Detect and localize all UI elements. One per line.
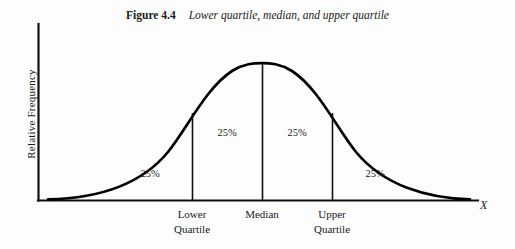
y-axis-label: Relative Frequency xyxy=(25,39,37,189)
area-label-far-left: 25% xyxy=(130,168,170,179)
area-label-far-right: 25% xyxy=(355,168,395,179)
tick-label-upper-quartile: Upper Quartile xyxy=(287,207,377,237)
normal-curve xyxy=(48,63,470,199)
area-label-left: 25% xyxy=(207,127,247,138)
tick-label-lower-quartile-line2: Quartile xyxy=(147,222,237,237)
x-axis-variable-label: X xyxy=(480,198,487,213)
tick-label-lower-quartile-line1: Lower xyxy=(178,208,207,220)
figure-container: Figure 4.4Lower quartile, median, and up… xyxy=(0,0,515,249)
tick-label-upper-quartile-line1: Upper xyxy=(318,208,346,220)
area-label-right: 25% xyxy=(277,127,317,138)
tick-label-upper-quartile-line2: Quartile xyxy=(287,222,377,237)
tick-label-median-line1: Median xyxy=(245,208,279,220)
